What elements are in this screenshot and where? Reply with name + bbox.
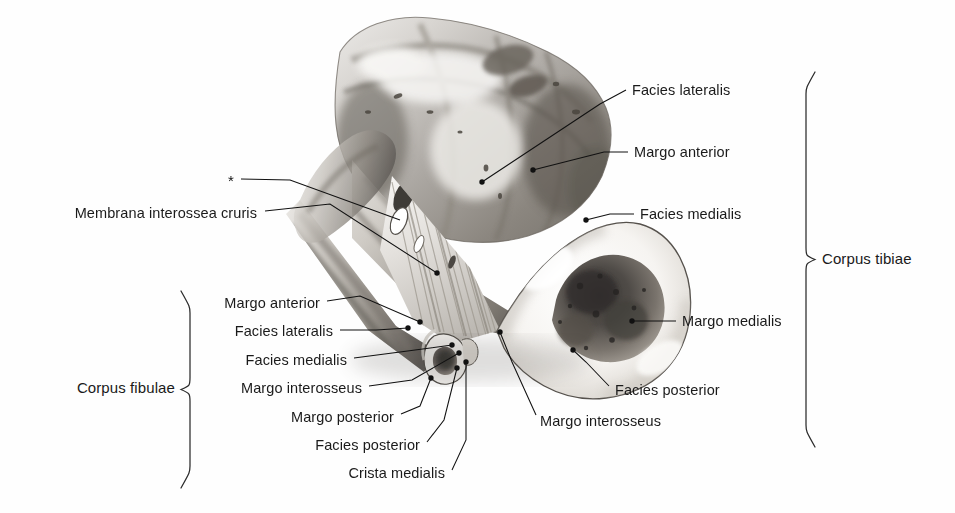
leader-dot-facies-lateralis-fibula bbox=[405, 325, 410, 330]
bone-illustration bbox=[0, 0, 955, 513]
leader-dot-facies-medialis-tibia bbox=[583, 217, 588, 222]
label-crista-medialis-fibula: Crista medialis bbox=[348, 466, 445, 481]
leader-dot-facies-lateralis-tibia bbox=[479, 179, 484, 184]
leader-dot-facies-posterior-tibia bbox=[570, 347, 575, 352]
label-facies-medialis-tibia: Facies medialis bbox=[640, 207, 741, 222]
label-margo-anterior-fibula: Margo anterior bbox=[224, 296, 320, 311]
label-margo-interosseus-fibula: Margo interosseus bbox=[241, 381, 362, 396]
leader-dot-margo-medialis-tibia bbox=[629, 318, 634, 323]
label-facies-posterior-tibia: Facies posterior bbox=[615, 383, 720, 398]
group-label-corpus-fibulae: Corpus fibulae bbox=[77, 380, 175, 395]
leader-dot-crista-medialis-fibula bbox=[463, 359, 468, 364]
label-facies-lateralis-tibia: Facies lateralis bbox=[632, 83, 730, 98]
leader-dot-margo-interosseus-fibula bbox=[456, 350, 461, 355]
leader-dot-margo-interosseus-tibia bbox=[497, 329, 502, 334]
label-facies-posterior-fibula: Facies posterior bbox=[315, 438, 420, 453]
figure-canvas: Facies lateralisMargo anteriorFacies med… bbox=[0, 0, 955, 513]
label-margo-interosseus-tibia: Margo interosseus bbox=[540, 414, 661, 429]
label-facies-lateralis-fibula: Facies lateralis bbox=[235, 324, 333, 339]
brace-corpus-tibiae bbox=[806, 72, 815, 447]
leader-dot-margo-anterior-tibia bbox=[530, 167, 535, 172]
leader-line-facies-medialis-tibia bbox=[586, 214, 634, 220]
asterisk-marker: * bbox=[228, 172, 234, 189]
label-margo-posterior-fibula: Margo posterior bbox=[291, 410, 394, 425]
label-margo-medialis-tibia: Margo medialis bbox=[682, 314, 782, 329]
label-facies-medialis-fibula: Facies medialis bbox=[246, 353, 347, 368]
leader-dot-membrana-interossea-cruris bbox=[434, 270, 439, 275]
brace-corpus-fibulae bbox=[181, 291, 190, 488]
label-margo-anterior-tibia: Margo anterior bbox=[634, 145, 730, 160]
leader-dot-margo-posterior-fibula bbox=[428, 375, 433, 380]
leader-dot-margo-anterior-fibula bbox=[417, 319, 422, 324]
group-label-corpus-tibiae: Corpus tibiae bbox=[822, 251, 912, 266]
leader-line-margo-posterior-fibula bbox=[401, 378, 431, 414]
leader-dot-facies-medialis-fibula bbox=[449, 342, 454, 347]
label-membrana-interossea-cruris: Membrana interossea cruris bbox=[75, 206, 257, 221]
leader-dot-facies-posterior-fibula bbox=[454, 365, 459, 370]
